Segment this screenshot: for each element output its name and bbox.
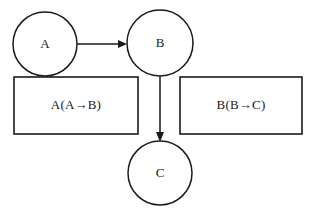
node-c-group[interactable]: C [128, 141, 192, 205]
flowchart-diagram: A(A→B) B(B→C) A B C [0, 0, 312, 216]
edge-a-to-b [77, 40, 127, 48]
box-right-group[interactable]: B(B→C) [180, 77, 302, 134]
node-c-label: C [156, 165, 165, 180]
node-a-label: A [40, 36, 50, 51]
box-left-label: A(A→B) [51, 97, 101, 112]
node-a-group[interactable]: A [13, 12, 77, 76]
box-right-label: B(B→C) [217, 97, 266, 112]
edge-a-to-b-arrowhead [118, 40, 127, 48]
diagram-canvas: A(A→B) B(B→C) A B C [0, 0, 312, 216]
node-b-label: B [156, 35, 165, 50]
box-left-group[interactable]: A(A→B) [14, 77, 138, 134]
edge-b-to-c [156, 76, 164, 142]
node-b-group[interactable]: B [127, 10, 193, 76]
